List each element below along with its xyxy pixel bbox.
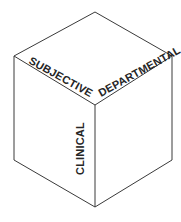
front-left-face-label-group: CLINICAL (74, 122, 86, 175)
cube-svg-canvas: SUBJECTIVE DEPARTMENTAL CLINICAL (0, 0, 181, 222)
isometric-cube-diagram: SUBJECTIVE DEPARTMENTAL CLINICAL (0, 0, 181, 222)
face-label-clinical: CLINICAL (74, 122, 86, 175)
